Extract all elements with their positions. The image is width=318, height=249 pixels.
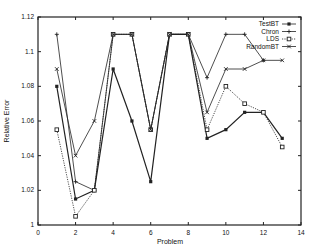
x-tick-label: 4	[111, 229, 115, 236]
series-line	[57, 34, 282, 199]
square-marker-icon	[224, 85, 228, 89]
square-marker-icon	[280, 145, 284, 149]
filled-circle-legend-icon	[287, 22, 290, 25]
square-marker-icon	[243, 102, 247, 106]
series-line	[57, 34, 282, 155]
x-tick-label: 10	[222, 229, 230, 236]
plus-marker-icon	[205, 76, 209, 80]
filled-circle-marker-icon	[243, 111, 246, 114]
filled-circle-marker-icon	[149, 180, 152, 183]
series-randombt	[55, 33, 284, 158]
square-marker-icon	[93, 189, 97, 193]
legend: TestBTChronLDSRandomBT	[246, 20, 296, 50]
legend-label-lds: LDS	[266, 35, 279, 42]
line-chart: 0246810121411.021.041.061.081.11.12 Test…	[0, 0, 318, 249]
y-tick-label: 1.04	[21, 152, 34, 159]
x-tick-label: 14	[297, 229, 305, 236]
plus-marker-icon	[55, 32, 59, 36]
plus-legend-icon	[287, 30, 291, 34]
plus-marker-icon	[74, 180, 78, 184]
x-tick-label: 12	[260, 229, 268, 236]
x-tick-label: 2	[74, 229, 78, 236]
filled-circle-marker-icon	[224, 128, 227, 131]
y-tick-label: 1.12	[21, 13, 34, 20]
square-marker-icon	[262, 111, 266, 115]
square-marker-icon	[205, 128, 209, 132]
y-tick-label: 1.06	[21, 117, 34, 124]
series-testbt	[55, 33, 284, 201]
legend-label-chron: Chron	[261, 28, 279, 35]
square-marker-icon	[74, 215, 78, 219]
legend-label-randombt: RandomBT	[246, 43, 279, 50]
y-tick-label: 1	[30, 221, 34, 228]
plus-marker-icon	[224, 32, 228, 36]
filled-circle-marker-icon	[55, 85, 58, 88]
x-axis-label: Problem	[157, 238, 183, 245]
x-tick-label: 0	[36, 229, 40, 236]
filled-circle-marker-icon	[281, 137, 284, 140]
y-tick-label: 1.08	[21, 82, 34, 89]
y-axis-label: Relative Error	[3, 99, 10, 142]
filled-circle-marker-icon	[130, 119, 133, 122]
filled-circle-marker-icon	[74, 197, 77, 200]
series-lds	[55, 33, 284, 219]
x-tick-label: 6	[149, 229, 153, 236]
y-tick-label: 1.1	[25, 48, 34, 55]
y-tick-label: 1.02	[21, 186, 34, 193]
legend-label-testbt: TestBT	[259, 20, 279, 27]
x-tick-label: 8	[186, 229, 190, 236]
square-legend-icon	[287, 37, 291, 41]
square-marker-icon	[55, 128, 59, 132]
plot-series	[55, 32, 284, 218]
filled-circle-marker-icon	[112, 67, 115, 70]
filled-circle-marker-icon	[205, 137, 208, 140]
